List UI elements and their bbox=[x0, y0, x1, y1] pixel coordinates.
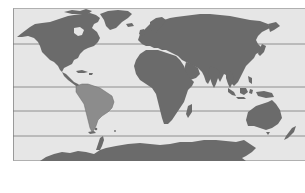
sumatra bbox=[228, 88, 236, 96]
south-america bbox=[76, 84, 114, 132]
tasmania bbox=[266, 132, 270, 135]
landmasses bbox=[17, 9, 296, 161]
australia bbox=[246, 100, 282, 130]
java bbox=[236, 97, 246, 99]
antarctic-peninsula bbox=[96, 136, 104, 150]
north-america bbox=[17, 13, 100, 72]
world-map bbox=[0, 0, 305, 193]
greenland bbox=[100, 10, 132, 30]
philippines bbox=[248, 76, 252, 84]
hispaniola bbox=[89, 73, 93, 75]
kamchatka bbox=[268, 22, 280, 32]
madagascar bbox=[186, 104, 192, 118]
arctic-islands bbox=[64, 9, 92, 14]
tierra-del-fuego bbox=[88, 131, 96, 134]
south-georgia bbox=[114, 130, 116, 132]
new-zealand bbox=[284, 126, 296, 140]
iceland bbox=[126, 23, 134, 27]
antarctica bbox=[40, 140, 256, 161]
borneo bbox=[240, 88, 248, 95]
sulawesi bbox=[249, 89, 253, 94]
central-america bbox=[62, 72, 80, 86]
cuba bbox=[76, 70, 88, 73]
new-guinea bbox=[256, 91, 274, 98]
